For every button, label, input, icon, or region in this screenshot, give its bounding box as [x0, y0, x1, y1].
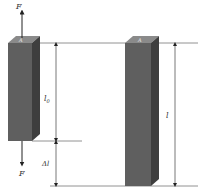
elongated-bar — [125, 36, 159, 186]
original-bar — [8, 36, 40, 141]
original-length-label: l0 — [44, 94, 51, 104]
cross-section-label-left: A — [18, 37, 23, 43]
bar-tension-diagram: F F l0 Δl l A A — [0, 0, 203, 195]
final-length-label: l — [166, 111, 169, 120]
elongation-label: Δl — [41, 160, 49, 168]
reference-lines — [32, 43, 198, 186]
force-bottom-label: F — [18, 169, 25, 178]
cross-section-label-right: A — [137, 37, 142, 43]
force-top-label: F — [15, 2, 22, 11]
